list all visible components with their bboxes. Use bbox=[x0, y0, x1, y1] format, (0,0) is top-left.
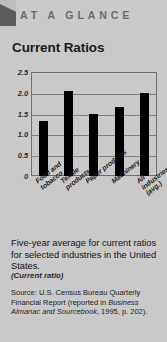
eyebrow-heading: AT A GLANCE bbox=[20, 9, 133, 21]
at-a-glance-card: AT A GLANCE Current Ratios 00.51.01.52.0… bbox=[0, 0, 167, 342]
corner-flag-icon bbox=[0, 0, 16, 26]
source-suffix: , 1995, p. 202). bbox=[97, 307, 147, 316]
source-note: Source: U.S. Census Bureau Quarterly Fin… bbox=[11, 288, 160, 317]
gridline bbox=[32, 94, 156, 95]
caption-subtext: (Current ratio) bbox=[11, 271, 63, 280]
y-tick-label: 2.5 bbox=[18, 68, 28, 77]
gridline bbox=[32, 135, 156, 136]
y-tick-label: 1.5 bbox=[18, 109, 28, 118]
y-tick-label: 2.0 bbox=[18, 88, 28, 97]
page-title: Current Ratios bbox=[12, 40, 104, 55]
bar-chart: 00.51.01.52.02.5 Food and tobaccoTextile… bbox=[6, 68, 161, 190]
gridline bbox=[32, 115, 156, 116]
y-tick-label: 0.5 bbox=[18, 151, 28, 160]
y-tick-label: 1.0 bbox=[18, 130, 28, 139]
gridline bbox=[32, 156, 156, 157]
caption-text: Five-year average for current ratios for… bbox=[11, 238, 159, 273]
y-tick-label: 0 bbox=[24, 172, 28, 181]
